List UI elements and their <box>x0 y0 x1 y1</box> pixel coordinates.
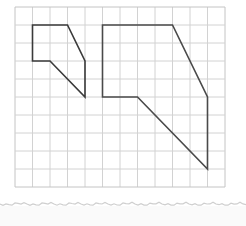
graph-paper <box>0 0 246 226</box>
background <box>0 0 246 226</box>
below-paper-area <box>0 206 246 226</box>
